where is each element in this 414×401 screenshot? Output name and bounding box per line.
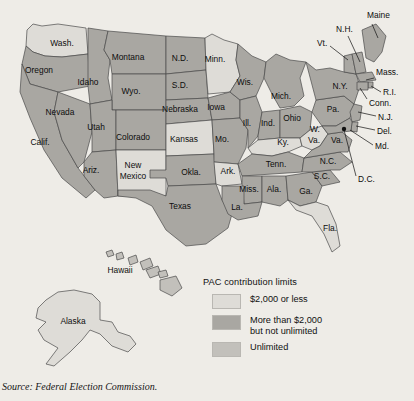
callout-label-NH: N.H. xyxy=(336,24,353,34)
legend-swatch-unlimited xyxy=(212,342,241,357)
state-label-NE: Nebraska xyxy=(162,104,198,114)
callout-label-DC: D.C. xyxy=(358,174,375,184)
state-MA[interactable] xyxy=(356,72,376,82)
callout-label-MASS: Mass. xyxy=(376,67,398,77)
state-label-NV: Nevada xyxy=(46,107,75,117)
callout-label-VT: Vt. xyxy=(317,38,327,48)
leader-del xyxy=(356,126,375,130)
callout-label-ME: Maine xyxy=(367,10,390,20)
state-label-OK: Okla. xyxy=(181,167,201,177)
callout-label-RI: R.I. xyxy=(383,87,396,97)
legend-label-unlimited: Unlimited xyxy=(250,342,288,353)
state-label-SC: S.C. xyxy=(314,171,330,181)
state-label-CO: Colorado xyxy=(116,132,150,142)
us-map-figure: Wash.OregonIdahoMontanaN.D.S.D.Minn.Wis.… xyxy=(0,0,414,401)
state-label-AL: Ala. xyxy=(267,184,281,194)
state-label-AR: Ark. xyxy=(221,166,236,176)
state-label-NM: New xyxy=(125,160,143,170)
state-AK[interactable] xyxy=(36,290,136,366)
callout-label-CONN: Conn. xyxy=(369,98,391,108)
state-label-OR: Oregon xyxy=(25,65,53,75)
state-label-MI: Mich. xyxy=(271,91,291,101)
legend-title: PAC contribution limits xyxy=(203,277,353,287)
leader-vt xyxy=(330,46,348,60)
state-label-GA: Ga. xyxy=(299,186,313,196)
legend-swatch-low xyxy=(212,294,241,309)
state-label-WV2: Va. xyxy=(308,135,320,145)
state-label-PA: Pa. xyxy=(327,104,340,114)
callout-label-NJ: N.J. xyxy=(378,112,393,122)
dc-dot xyxy=(342,127,346,131)
state-label-NY: N.Y. xyxy=(332,81,347,91)
inset-label-hawaii: Hawaii xyxy=(107,265,132,275)
state-label-VA: Va. xyxy=(331,135,343,145)
state-label-WV: W. xyxy=(310,124,320,134)
legend-swatch-mid xyxy=(212,315,241,330)
state-label-WY: Wyo. xyxy=(121,86,140,96)
state-label-WA: Wash. xyxy=(50,38,73,48)
inset-label-alaska: Alaska xyxy=(60,316,85,326)
legend-item-low[interactable]: $2,000 or less xyxy=(203,294,353,309)
state-label-IA: Iowa xyxy=(207,102,225,112)
legend-item-mid[interactable]: More than $2,000 but not unlimited xyxy=(203,315,353,336)
state-label-IL: Ill. xyxy=(243,118,251,128)
callout-label-DEL: Del. xyxy=(377,126,392,136)
state-label-UT: Utah xyxy=(87,122,105,132)
state-label-LA: La. xyxy=(231,202,243,212)
state-label-ND: N.D. xyxy=(172,53,189,63)
state-label-KS: Kansas xyxy=(170,134,198,144)
state-TX[interactable] xyxy=(118,184,232,246)
state-label-ID: Idaho xyxy=(78,77,99,87)
state-KY[interactable] xyxy=(248,138,302,156)
leader-dc xyxy=(344,130,356,176)
state-CO[interactable] xyxy=(116,110,166,150)
state-label-MN: Minn. xyxy=(205,54,225,64)
legend-label-mid-line1: More than $2,000 xyxy=(250,315,322,326)
state-label-MO: Mo. xyxy=(215,134,229,144)
state-label-CA: Calif. xyxy=(30,137,49,147)
state-label-MT: Montana xyxy=(112,52,145,62)
legend-label-unlimited-line1: Unlimited xyxy=(250,342,288,353)
state-label-OH: Ohio xyxy=(283,113,301,123)
state-ME[interactable] xyxy=(362,24,386,62)
legend-label-low: $2,000 or less xyxy=(250,294,308,305)
callout-label-MD: Md. xyxy=(375,141,389,151)
state-label-MS: Miss. xyxy=(239,184,259,194)
legend-item-unlimited[interactable]: Unlimited xyxy=(203,342,353,357)
legend-label-low-line1: $2,000 or less xyxy=(250,294,308,305)
state-label-NC: N.C. xyxy=(320,156,337,166)
state-label-WI: Wis. xyxy=(237,77,253,87)
state-label-FL: Fla. xyxy=(323,223,337,233)
state-CT[interactable] xyxy=(357,82,368,90)
state-label-AZ: Ariz. xyxy=(83,165,100,175)
legend-label-mid: More than $2,000 but not unlimited xyxy=(250,315,322,336)
state-label-TN: Tenn. xyxy=(266,159,287,169)
state-label-KY: Ky. xyxy=(277,137,288,147)
legend-label-mid-line2: but not unlimited xyxy=(250,326,322,337)
leader-ri xyxy=(371,86,381,92)
state-label-NM2: Mexico xyxy=(120,171,147,181)
leader-md xyxy=(350,130,373,145)
state-label-TX: Texas xyxy=(169,201,191,211)
state-label-IN: Ind. xyxy=(261,118,275,128)
state-label-SD: S.D. xyxy=(172,80,188,90)
source-note: Source: Federal Election Commission. xyxy=(2,381,157,392)
legend: PAC contribution limits $2,000 or less M… xyxy=(203,277,353,363)
